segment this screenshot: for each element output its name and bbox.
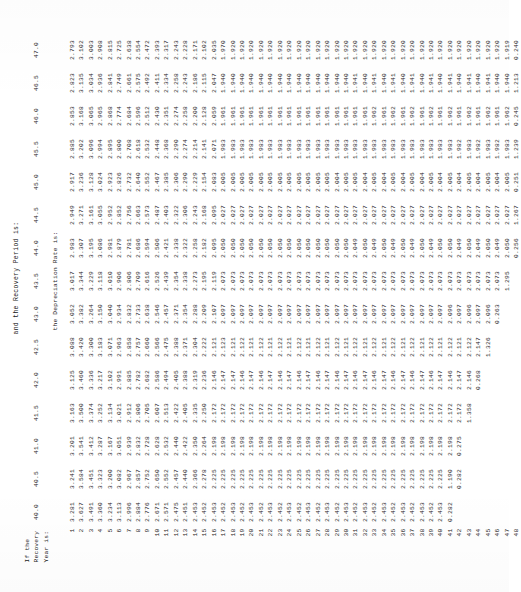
rate-cell: 2.663 [133,199,142,232]
table-row: 440.2682.1472.0972.0732.0492.0272.0041.9… [473,34,482,563]
rate-cell: 1.941 [464,67,473,100]
rate-cell: 2.146 [445,364,454,397]
rate-cell: 2.172 [294,397,303,430]
rate-cell: 1.961 [332,100,341,133]
period-column-header: 45.5 [22,133,50,166]
rate-cell: 2.422 [171,397,180,430]
rate-cell [464,496,473,529]
rate-cell: 2.027 [417,199,426,232]
rate-cell: 2.121 [435,331,444,364]
rate-cell: 2.198 [284,430,293,463]
rate-cell: 1.941 [483,67,492,100]
rate-cell: 2.147 [435,364,444,397]
table-row: 292.4522.2252.1982.1722.1462.1222.0972.0… [332,34,341,563]
rate-cell [511,397,520,430]
rate-cell: 2.884 [133,496,142,529]
rate-cell: 2.172 [454,397,463,430]
rate-cell: 2.121 [246,331,255,364]
period-column-header: 47.0 [22,34,50,67]
rate-cell: 2.225 [284,463,293,496]
rate-cell: 0.251 [511,166,520,199]
rate-cell: 2.452 [294,496,303,529]
rate-cell: 2.073 [284,265,293,298]
rate-cell: 1.983 [237,133,246,166]
rate-cell: 2.050 [265,232,274,265]
table-row: 262.4532.2252.1982.1722.1472.1212.0972.0… [303,34,312,563]
rate-cell: 2.452 [407,496,416,529]
rate-cell: 2.225 [256,463,265,496]
table-row: 53.2343.2003.1673.1343.1023.0713.0403.01… [105,34,114,563]
rate-cell: 2.475 [171,496,180,529]
table-row: 222.4532.2252.1982.1722.1472.1212.0972.0… [265,34,274,563]
rate-cell: 2.050 [435,232,444,265]
rate-cell: 2.682 [142,364,151,397]
rate-cell: 2.354 [180,298,189,331]
rate-cell: 1.961 [265,100,274,133]
rate-cell: 2.146 [209,364,218,397]
rate-cell: 2.172 [237,397,246,430]
rate-cell: 2.304 [190,331,199,364]
recovery-year-label: 35 [388,529,397,563]
recovery-year-label: 32 [360,529,369,563]
rate-cell: 1.326 [483,331,492,364]
rate-cell: 2.885 [67,133,76,166]
rate-cell: 1.920 [379,34,388,67]
rate-cell: 2.638 [124,34,133,67]
rate-cell: 2.172 [341,397,350,430]
rate-cell: 2.225 [360,463,369,496]
rate-cell: 2.121 [341,331,350,364]
rate-cell: 2.005 [388,166,397,199]
rate-cell: 2.732 [124,166,133,199]
rate-cell: 2.823 [67,67,76,100]
rate-cell: 2.128 [199,100,208,133]
rate-cell: 2.073 [322,265,331,298]
rate-cell: 2.472 [142,34,151,67]
rate-cell: 2.660 [142,331,151,364]
recovery-year-label: 38 [417,529,426,563]
rate-cell: 2.172 [284,397,293,430]
rate-cell: 0.263 [492,298,501,331]
rate-cell: 3.017 [67,265,76,298]
rate-cell: 2.939 [124,430,133,463]
rate-cell: 1.213 [511,67,520,100]
period-column-header: 41.5 [22,397,50,430]
rate-cell: 1.961 [237,100,246,133]
rate-cell: 2.027 [228,199,237,232]
rate-cell: 2.952 [105,199,114,232]
rate-cell: 2.594 [142,232,151,265]
rate-cell [483,430,492,463]
rate-cell: 1.239 [511,133,520,166]
rate-cell: 2.453 [265,496,274,529]
rate-cell: 2.475 [161,331,170,364]
rate-cell: 1.961 [417,100,426,133]
rate-cell: 2.526 [152,265,161,298]
rate-cell: 2.172 [313,397,322,430]
rate-cell: 1.920 [492,34,501,67]
rate-cell: 2.638 [142,298,151,331]
rate-cell: 2.172 [265,397,274,430]
rate-cell: 2.225 [332,463,341,496]
rate-cell: 2.225 [417,463,426,496]
rate-cell: 1.983 [464,133,473,166]
rate-cell: 2.097 [379,298,388,331]
rate-cell: 2.147 [246,364,255,397]
rate-cell: 1.983 [228,133,237,166]
rate-cell [492,397,501,430]
rate-cell: 2.027 [284,199,293,232]
table-row: 232.4522.2252.1982.1722.1462.1222.0972.0… [275,34,284,563]
rate-cell: 2.172 [332,397,341,430]
recovery-year-label: 2 [76,529,85,563]
rate-cell: 3.003 [86,34,95,67]
rate-cell: 3.412 [86,430,95,463]
rate-cell: 2.453 [284,496,293,529]
rate-cell: 2.027 [322,199,331,232]
rate-cell: 2.852 [114,199,123,232]
rate-cell: 2.774 [114,100,123,133]
rate-cell: 2.640 [133,166,142,199]
rate-cell: 2.073 [275,265,284,298]
rate-cell: 2.146 [275,364,284,397]
rate-cell: 2.172 [275,397,284,430]
rate-cell: 2.452 [332,496,341,529]
rate-cell: 1.920 [303,34,312,67]
